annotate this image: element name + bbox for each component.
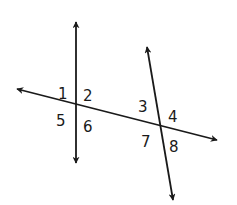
angle-label-6: 6 bbox=[83, 118, 93, 136]
angle-label-4: 4 bbox=[168, 108, 178, 126]
lines-group bbox=[17, 22, 217, 200]
line-transversal bbox=[17, 89, 217, 140]
angle-label-1: 1 bbox=[58, 85, 68, 103]
angle-label-3: 3 bbox=[138, 98, 148, 116]
angle-label-7: 7 bbox=[141, 133, 151, 151]
angle-label-2: 2 bbox=[83, 87, 93, 105]
angles-diagram: 12563478 bbox=[0, 0, 237, 205]
angle-label-5: 5 bbox=[56, 112, 66, 130]
angle-label-8: 8 bbox=[169, 138, 179, 156]
